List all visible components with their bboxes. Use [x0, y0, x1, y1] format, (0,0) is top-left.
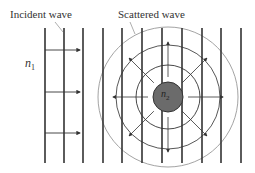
n1-subscript: 1 — [31, 63, 35, 72]
diagram-canvas — [0, 0, 255, 173]
scattered-wave-label: Scattered wave — [118, 8, 185, 20]
medium-n1-label: n1 — [25, 56, 35, 72]
particle-n2-label: n2 — [161, 88, 170, 102]
n2-subscript: 2 — [166, 94, 170, 102]
incident-leader-line — [55, 22, 63, 32]
propagation-arrows — [45, 42, 223, 152]
incident-wave-label: Incident wave — [10, 8, 72, 20]
scattered-leader-line — [130, 22, 135, 34]
